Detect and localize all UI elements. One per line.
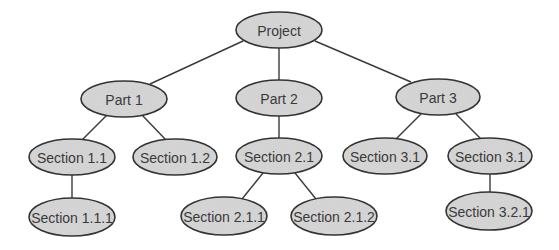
node-sec2_1_2: Section 2.1.2	[291, 197, 377, 235]
node-label: Part 3	[419, 90, 457, 106]
node-part2: Part 2	[236, 80, 322, 116]
node-sec3_1a: Section 3.1	[343, 138, 427, 174]
edges-layer	[72, 41, 490, 199]
edge-part1-to-sec1_1	[82, 115, 107, 140]
node-sec3_2_1: Section 3.2.1	[446, 192, 532, 230]
node-sec2_1_1: Section 2.1.1	[181, 197, 267, 235]
node-sec1_2: Section 1.2	[133, 139, 217, 175]
edge-project-to-part1	[150, 41, 243, 84]
node-sec2_1: Section 2.1	[236, 138, 322, 174]
node-label: Section 1.1.1	[31, 210, 113, 226]
node-project: Project	[236, 12, 322, 48]
node-label: Section 2.1	[244, 149, 314, 165]
node-sec3_1b: Section 3.1	[448, 138, 532, 174]
edge-sec2_1-to-sec2_1_1	[242, 173, 263, 199]
node-label: Part 2	[260, 91, 298, 107]
node-label: Section 1.2	[140, 150, 210, 166]
node-label: Section 3.1	[455, 149, 525, 165]
nodes-layer: ProjectPart 1Part 2Part 3Section 1.1Sect…	[29, 12, 532, 236]
node-part1: Part 1	[81, 81, 167, 117]
node-sec1_1_1: Section 1.1.1	[29, 198, 115, 236]
edge-part3-to-sec3_1a	[396, 114, 421, 139]
node-label: Section 3.1	[350, 149, 420, 165]
edge-part3-to-sec3_1b	[456, 114, 481, 139]
node-label: Part 1	[105, 92, 143, 108]
node-sec1_1: Section 1.1	[29, 139, 115, 175]
node-part3: Part 3	[396, 79, 480, 115]
node-label: Section 2.1.1	[183, 209, 265, 225]
node-label: Section 2.1.2	[293, 209, 375, 225]
node-label: Project	[257, 23, 301, 39]
node-label: Section 3.2.1	[448, 204, 530, 220]
edge-part1-to-sec1_2	[142, 115, 166, 140]
edge-project-to-part3	[315, 41, 411, 82]
project-tree-diagram: ProjectPart 1Part 2Part 3Section 1.1Sect…	[0, 0, 559, 250]
edge-sec2_1-to-sec2_1_2	[295, 173, 316, 199]
node-label: Section 1.1	[37, 150, 107, 166]
